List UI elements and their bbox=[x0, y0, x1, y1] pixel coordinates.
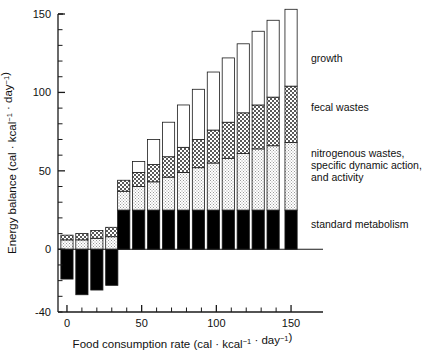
bar-segment-checker bbox=[162, 157, 174, 177]
stacked-bar bbox=[76, 234, 88, 295]
bar-segment-checker bbox=[207, 130, 219, 163]
bar-segment-light-stipple bbox=[162, 177, 174, 210]
bar-segment-checker bbox=[133, 172, 145, 186]
bar-segment-light-stipple bbox=[91, 238, 103, 249]
stacked-bar bbox=[148, 139, 160, 249]
stacked-bar bbox=[207, 72, 219, 249]
bar-segment-checker bbox=[106, 227, 118, 236]
bar-segment-white bbox=[133, 161, 145, 172]
stacked-bar bbox=[267, 20, 279, 249]
bar-segment-black bbox=[237, 210, 249, 249]
bar-segment-white bbox=[162, 122, 174, 157]
bar-segment-light-stipple bbox=[237, 154, 249, 210]
stacked-bar bbox=[133, 161, 145, 249]
bar-segment-black bbox=[207, 210, 219, 249]
stacked-bar bbox=[177, 105, 189, 249]
bar-segment-light-stipple bbox=[252, 149, 264, 210]
bar-segment-white bbox=[252, 31, 264, 105]
bar-segment-black bbox=[285, 210, 297, 249]
bar-segment-checker bbox=[76, 234, 88, 240]
bar-segment-checker bbox=[285, 86, 297, 142]
stacked-bar bbox=[162, 122, 174, 249]
y-tick-label: 150 bbox=[33, 8, 51, 20]
bar-segment-black bbox=[177, 210, 189, 249]
bar-segment-light-stipple bbox=[118, 191, 130, 210]
series-annotation: nitrogenous wastes, bbox=[311, 147, 404, 159]
y-tick-label: 50 bbox=[39, 165, 51, 177]
stacked-bar bbox=[192, 89, 204, 249]
bar-segment-light-stipple bbox=[133, 187, 145, 211]
bar-segment-checker bbox=[252, 105, 264, 149]
bar-segment-light-stipple bbox=[61, 240, 73, 249]
stacked-bar bbox=[118, 180, 130, 249]
x-tick-label: 100 bbox=[207, 317, 225, 329]
stacked-bar bbox=[285, 9, 297, 249]
bar-segment-white bbox=[267, 20, 279, 97]
bar-segment-checker bbox=[237, 113, 249, 154]
x-tick-label: 150 bbox=[282, 317, 300, 329]
stacked-bar bbox=[106, 227, 118, 285]
energy-balance-chart: 050100150-40050100150Food consumption ra… bbox=[0, 0, 444, 356]
bar-segment-black bbox=[162, 210, 174, 249]
stacked-bar bbox=[61, 235, 73, 279]
bar-segment-black bbox=[148, 210, 160, 249]
bar-segment-checker bbox=[148, 165, 160, 182]
series-annotation: standard metabolism bbox=[311, 218, 409, 230]
x-tick-label: 50 bbox=[136, 317, 148, 329]
bar-segment-black bbox=[106, 249, 118, 285]
bar-segment-black bbox=[61, 249, 73, 279]
series-annotation: specific dynamic action, bbox=[311, 159, 422, 171]
bar-segment-black bbox=[91, 249, 103, 290]
bar-segment-black bbox=[267, 210, 279, 249]
bar-segment-checker bbox=[222, 122, 234, 158]
bar-segment-light-stipple bbox=[148, 182, 160, 210]
bar-segment-light-stipple bbox=[222, 158, 234, 210]
series-annotation: growth bbox=[311, 52, 343, 64]
bar-segment-checker bbox=[118, 180, 130, 191]
bar-segment-light-stipple bbox=[177, 172, 189, 210]
bar-segment-black bbox=[222, 210, 234, 249]
bar-segment-white bbox=[177, 105, 189, 147]
bar-segment-light-stipple bbox=[76, 240, 88, 249]
bar-segment-white bbox=[222, 58, 234, 122]
stacked-bar bbox=[252, 31, 264, 249]
bar-segment-light-stipple bbox=[267, 146, 279, 210]
bar-segment-light-stipple bbox=[106, 237, 118, 250]
x-tick-label: 0 bbox=[64, 317, 70, 329]
bar-segment-black bbox=[192, 210, 204, 249]
bar-segment-light-stipple bbox=[192, 168, 204, 210]
bar-segment-checker bbox=[267, 97, 279, 146]
bar-segment-checker bbox=[61, 235, 73, 240]
series-annotation: and activity bbox=[311, 171, 364, 183]
bar-segment-light-stipple bbox=[207, 163, 219, 210]
y-tick-label: 0 bbox=[45, 243, 51, 255]
stacked-bar bbox=[91, 230, 103, 290]
bar-segment-black bbox=[252, 210, 264, 249]
stacked-bar bbox=[222, 58, 234, 249]
bar-segment-black bbox=[133, 210, 145, 249]
bar-segment-checker bbox=[177, 147, 189, 172]
bar-segment-checker bbox=[91, 230, 103, 238]
bar-segment-white bbox=[285, 9, 297, 86]
chart-canvas: 050100150-40050100150Food consumption ra… bbox=[0, 0, 444, 356]
bar-segment-black bbox=[118, 210, 130, 249]
bar-segment-black bbox=[76, 249, 88, 294]
bar-segment-white bbox=[237, 44, 249, 113]
bar-segment-white bbox=[148, 139, 160, 164]
stacked-bar bbox=[237, 44, 249, 249]
series-annotation: fecal wastes bbox=[311, 101, 369, 113]
bar-segment-white bbox=[192, 89, 204, 139]
bar-segment-light-stipple bbox=[285, 143, 297, 210]
y-tick-label-min: -40 bbox=[35, 306, 51, 318]
bar-segment-checker bbox=[192, 139, 204, 167]
y-tick-label: 100 bbox=[33, 86, 51, 98]
bar-segment-white bbox=[207, 72, 219, 130]
